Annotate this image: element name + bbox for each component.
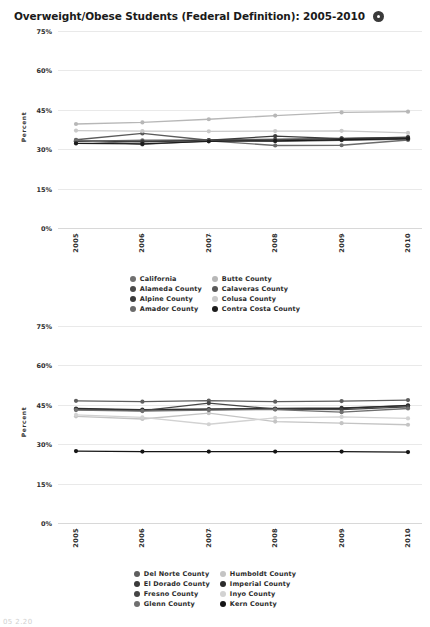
legend-label: Alpine County xyxy=(140,295,193,303)
legend-item-imperial-county[interactable]: Imperial County xyxy=(220,580,296,588)
legend-item-humboldt-county[interactable]: Humboldt County xyxy=(220,570,296,578)
x-tick: 2007 xyxy=(205,233,213,257)
data-point[interactable] xyxy=(74,449,78,453)
data-point[interactable] xyxy=(406,416,410,420)
data-point[interactable] xyxy=(207,117,211,121)
x-tick: 2010 xyxy=(404,233,412,257)
data-point[interactable] xyxy=(406,137,410,141)
legend-item-alameda-county[interactable]: Alameda County xyxy=(130,285,202,293)
data-point[interactable] xyxy=(406,423,410,427)
plot-area-1: Percent 75%60%45%30%15%0% xyxy=(0,24,430,229)
legend-item-california[interactable]: California xyxy=(130,275,202,283)
legend-item-fresno-county[interactable]: Fresno County xyxy=(134,590,210,598)
legend-item-colusa-county[interactable]: Colusa County xyxy=(212,295,300,303)
legend-item-alpine-county[interactable]: Alpine County xyxy=(130,295,202,303)
data-point[interactable] xyxy=(140,449,144,453)
data-point[interactable] xyxy=(140,409,144,413)
data-point[interactable] xyxy=(207,408,211,412)
data-point[interactable] xyxy=(207,139,211,143)
data-point[interactable] xyxy=(140,120,144,124)
data-point[interactable] xyxy=(273,139,277,143)
data-point[interactable] xyxy=(406,398,410,402)
data-point[interactable] xyxy=(140,142,144,146)
y-tick-label: 0% xyxy=(41,520,52,528)
legend-item-del-norte-county[interactable]: Del Norte County xyxy=(134,570,210,578)
data-point[interactable] xyxy=(140,129,144,133)
legend-item-kern-county[interactable]: Kern County xyxy=(220,600,296,608)
legend-swatch-icon xyxy=(134,601,140,607)
data-point[interactable] xyxy=(207,401,211,405)
legend-swatch-icon xyxy=(130,296,136,302)
y-tick-label: 0% xyxy=(41,225,52,233)
legend-swatch-icon xyxy=(212,276,218,282)
data-point[interactable] xyxy=(273,129,277,133)
legend-label: Alameda County xyxy=(140,285,202,293)
legend-swatch-icon xyxy=(220,591,226,597)
data-point[interactable] xyxy=(273,416,277,420)
legend-item-inyo-county[interactable]: Inyo County xyxy=(220,590,296,598)
x-tick-label: 2007 xyxy=(205,528,213,548)
data-point[interactable] xyxy=(74,128,78,132)
chart-block-2: Percent 75%60%45%30%15%0% 20052006200720… xyxy=(0,319,430,614)
data-point[interactable] xyxy=(273,400,277,404)
data-point[interactable] xyxy=(273,420,277,424)
legend-item-contra-costa-county[interactable]: Contra Costa County xyxy=(212,305,300,313)
legend-swatch-icon xyxy=(220,601,226,607)
data-point[interactable] xyxy=(207,129,211,133)
y-tick-label: 15% xyxy=(36,481,52,489)
data-point[interactable] xyxy=(74,122,78,126)
y-axis-title-1: Percent xyxy=(20,111,27,141)
data-point[interactable] xyxy=(273,407,277,411)
x-tick: 2006 xyxy=(138,233,146,257)
data-point[interactable] xyxy=(406,450,410,454)
info-icon[interactable] xyxy=(373,11,384,22)
data-point[interactable] xyxy=(340,138,344,142)
legend-label: Kern County xyxy=(230,600,277,608)
data-point[interactable] xyxy=(406,406,410,410)
data-point[interactable] xyxy=(140,400,144,404)
data-point[interactable] xyxy=(340,410,344,414)
y-tick-label: 60% xyxy=(36,67,52,75)
data-point[interactable] xyxy=(273,449,277,453)
data-point[interactable] xyxy=(273,113,277,117)
x-tick-label: 2006 xyxy=(138,233,146,253)
data-point[interactable] xyxy=(273,134,277,138)
y-tick-label: 45% xyxy=(36,107,52,115)
data-point[interactable] xyxy=(340,129,344,133)
y-tick-label: 30% xyxy=(36,441,52,449)
x-tick-label: 2006 xyxy=(138,528,146,548)
legend-item-butte-county[interactable]: Butte County xyxy=(212,275,300,283)
data-point[interactable] xyxy=(340,415,344,419)
data-point[interactable] xyxy=(340,449,344,453)
series-line xyxy=(76,413,408,425)
data-point[interactable] xyxy=(74,141,78,145)
x-tick: 2007 xyxy=(205,528,213,552)
data-point[interactable] xyxy=(207,449,211,453)
data-point[interactable] xyxy=(340,399,344,403)
legend-label: Imperial County xyxy=(230,580,291,588)
plot-area-2: Percent 75%60%45%30%15%0% xyxy=(0,319,430,524)
x-tick-label: 2008 xyxy=(271,528,279,548)
data-point[interactable] xyxy=(340,110,344,114)
legend-item-amador-county[interactable]: Amador County xyxy=(130,305,202,313)
data-point[interactable] xyxy=(207,422,211,426)
data-point[interactable] xyxy=(273,143,277,147)
series-line xyxy=(76,131,408,133)
data-point[interactable] xyxy=(340,421,344,425)
legend-item-calaveras-county[interactable]: Calaveras County xyxy=(212,285,300,293)
data-point[interactable] xyxy=(74,413,78,417)
data-point[interactable] xyxy=(406,110,410,114)
data-point[interactable] xyxy=(340,143,344,147)
legend-swatch-icon xyxy=(220,581,226,587)
legend-swatch-icon xyxy=(134,591,140,597)
legend-item-glenn-county[interactable]: Glenn County xyxy=(134,600,210,608)
x-tick: 2009 xyxy=(338,233,346,257)
y-tick-label: 45% xyxy=(36,402,52,410)
data-point[interactable] xyxy=(140,415,144,419)
data-point[interactable] xyxy=(74,399,78,403)
data-point[interactable] xyxy=(74,408,78,412)
data-point[interactable] xyxy=(406,131,410,135)
legend-label: Inyo County xyxy=(230,590,276,598)
series-line xyxy=(76,451,408,452)
legend-item-el-dorado-county[interactable]: El Dorado County xyxy=(134,580,210,588)
